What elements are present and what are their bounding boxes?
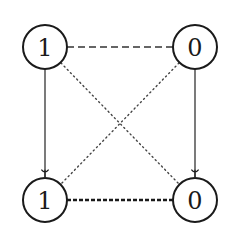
node-top-left: 1 [23, 25, 67, 69]
node-bottom-left: 1 [23, 178, 67, 222]
node-label: 0 [187, 34, 202, 62]
node-label: 1 [37, 187, 52, 215]
node-top-right: 0 [173, 25, 217, 69]
graph-diagram: 1 0 1 0 [0, 0, 235, 242]
node-label: 0 [187, 187, 202, 215]
node-label: 1 [37, 34, 52, 62]
node-bottom-right: 0 [173, 178, 217, 222]
